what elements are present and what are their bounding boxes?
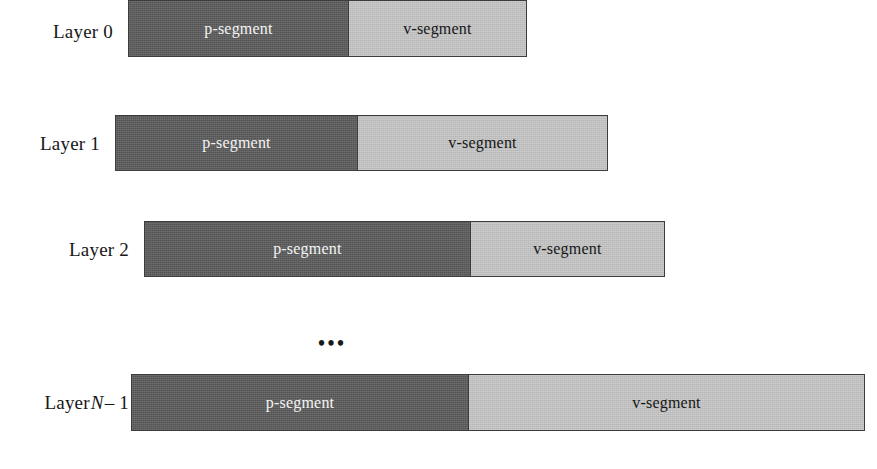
layer-n-minus-1-v-segment-label: v-segment xyxy=(632,395,700,411)
layer-bar-0: p-segment v-segment xyxy=(128,0,527,57)
layer-2-v-segment-label: v-segment xyxy=(533,241,601,257)
layer-1-p-segment: p-segment xyxy=(116,116,357,170)
layer-label-0-text: Layer 0 xyxy=(53,21,113,42)
layer-label-n-suffix: – 1 xyxy=(105,392,129,413)
layer-2-p-segment: p-segment xyxy=(145,222,470,276)
layer-0-v-segment: v-segment xyxy=(348,1,526,56)
layer-label-1: Layer 1 xyxy=(40,134,100,153)
layer-bar-n-minus-1: p-segment v-segment xyxy=(131,374,865,431)
layer-2-p-segment-label: p-segment xyxy=(273,241,341,257)
layer-bar-1: p-segment v-segment xyxy=(115,115,608,171)
layer-label-0: Layer 0 xyxy=(53,22,113,41)
layer-n-minus-1-v-segment: v-segment xyxy=(468,375,864,430)
layer-label-2-text: Layer 2 xyxy=(69,239,129,260)
layer-label-n-prefix: Layer xyxy=(44,392,89,413)
layer-label-n-minus-1: LayerN– 1 xyxy=(44,393,129,412)
layer-n-minus-1-p-segment: p-segment xyxy=(132,375,468,430)
layer-label-1-text: Layer 1 xyxy=(40,133,100,154)
layer-0-v-segment-label: v-segment xyxy=(403,21,471,37)
layer-2-v-segment: v-segment xyxy=(470,222,664,276)
ellipsis-text: ••• xyxy=(318,332,347,354)
layer-1-v-segment-label: v-segment xyxy=(448,135,516,151)
layer-bar-2: p-segment v-segment xyxy=(144,221,665,277)
layer-segmentation-diagram: Layer 0 p-segment v-segment Layer 1 p-se… xyxy=(0,0,877,469)
layer-1-p-segment-label: p-segment xyxy=(202,135,270,151)
layer-1-v-segment: v-segment xyxy=(357,116,607,170)
vertical-continuation-ellipsis: ••• xyxy=(318,333,347,353)
layer-label-n-variable: N xyxy=(90,392,105,413)
layer-label-2: Layer 2 xyxy=(69,240,129,259)
layer-0-p-segment-label: p-segment xyxy=(204,21,272,37)
layer-n-minus-1-p-segment-label: p-segment xyxy=(266,395,334,411)
layer-0-p-segment: p-segment xyxy=(129,1,348,56)
